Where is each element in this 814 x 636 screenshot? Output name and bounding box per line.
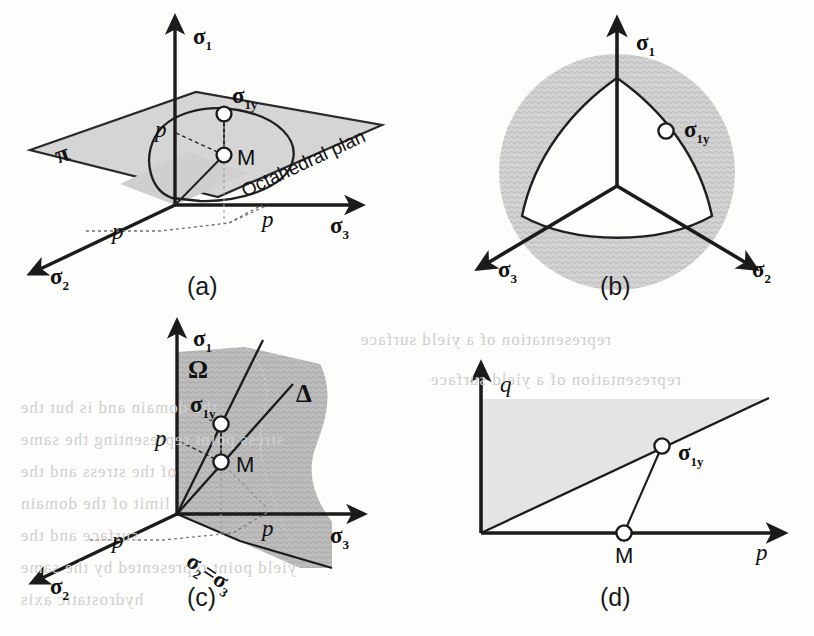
m-point-marker-c	[213, 454, 228, 469]
p-axis-label-d: p	[756, 540, 768, 566]
caption-d: (d)	[600, 583, 631, 612]
bleed-text-8: hydrostatic axis	[20, 590, 143, 610]
p-label-sigma1-a: p	[155, 117, 167, 143]
m-label-a: M	[237, 145, 255, 171]
bleed-text-5: limit of the domain	[20, 494, 170, 514]
bleed-text-1: representation of a yield surface	[360, 330, 611, 350]
sigma1-label-a: σ1	[193, 24, 212, 54]
sigma3-label-b: σ3	[498, 257, 517, 287]
yield-point-marker-a	[217, 107, 232, 122]
p-label-sigma1-c: p	[155, 426, 167, 452]
m-label-c: M	[236, 452, 254, 478]
p-label-sigma3-c: p	[262, 516, 274, 542]
bleed-text-9: representation of a yield surface	[430, 370, 681, 390]
yield-point-marker-b	[658, 123, 673, 138]
p-label-sigma3-a: p	[262, 207, 274, 233]
bleed-text-3: stress point representing the same	[20, 430, 283, 450]
caption-b: (b)	[600, 272, 631, 301]
delta-label-c: Δ	[296, 380, 312, 408]
p-label-sigma2-c: p	[112, 528, 124, 554]
q-axis-label-d: q	[500, 372, 512, 398]
caption-c: (c)	[187, 583, 216, 612]
sigma1-label-c: σ1	[193, 326, 212, 356]
sigma1-label-b: σ1	[636, 30, 655, 60]
m-label-d: M	[615, 543, 633, 569]
sigma3-label-c: σ3	[330, 523, 349, 553]
sigma1y-label-b: σ1y	[684, 117, 710, 147]
caption-a: (a)	[187, 272, 218, 301]
omega-label-c: Ω	[188, 356, 208, 384]
sigma2-label-b: σ2	[752, 257, 771, 287]
m-point-marker-a	[217, 148, 232, 163]
sigma2-label-c: σ2	[50, 574, 69, 604]
sigma1y-label-a: σ1y	[232, 83, 258, 113]
p-label-sigma2-a: p	[112, 219, 124, 245]
sigma1y-label-c: σ1y	[190, 392, 216, 422]
bleed-text-4: of the stress and the	[20, 462, 176, 482]
m-point-marker-d	[616, 525, 631, 540]
sigma1y-label-d: σ1y	[678, 440, 704, 470]
yield-point-marker-d	[654, 438, 669, 453]
sigma3-label-a: σ3	[330, 213, 349, 243]
bleed-text-2: the domain and is but the	[20, 398, 216, 418]
sigma2-label-a: σ2	[50, 264, 69, 294]
